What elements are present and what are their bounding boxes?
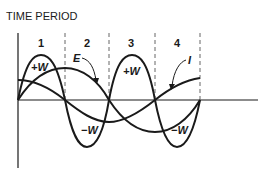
period-label-3: 3: [128, 37, 134, 49]
power-waveform-diagram: TIME PERIOD 1 2 3 4 +W +W −W −W E I: [0, 0, 270, 175]
period-label-1: 1: [38, 37, 44, 49]
period-label-2: 2: [84, 37, 90, 49]
power-negative-label-2: −W: [171, 124, 189, 136]
power-positive-label-2: +W: [123, 65, 141, 77]
current-label: I: [188, 54, 192, 66]
period-label-4: 4: [174, 37, 181, 49]
power-positive-label-1: +W: [31, 61, 49, 73]
diagram-title: TIME PERIOD: [6, 10, 78, 22]
power-negative-label-1: −W: [81, 124, 99, 136]
voltage-label: E: [73, 52, 81, 64]
